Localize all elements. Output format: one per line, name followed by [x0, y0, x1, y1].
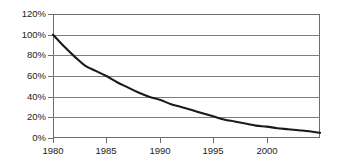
y-axis-tick: [48, 55, 53, 56]
y-axis-label: 0%: [2, 133, 46, 143]
x-axis-label: 1985: [86, 145, 126, 156]
gridline-horizontal: [53, 35, 320, 36]
y-axis-label: 60%: [2, 71, 46, 81]
x-axis-tick: [213, 138, 214, 143]
gridline-horizontal: [53, 97, 320, 98]
gridline-horizontal: [53, 76, 320, 77]
x-axis-tick: [267, 138, 268, 143]
x-axis-tick: [53, 138, 54, 143]
y-axis-tick: [48, 97, 53, 98]
x-axis-label: 1990: [140, 145, 180, 156]
gridline-horizontal: [53, 55, 320, 56]
y-axis-tick: [48, 76, 53, 77]
gridline-horizontal: [53, 117, 320, 118]
y-axis-tick: [48, 117, 53, 118]
y-axis-tick: [48, 14, 53, 15]
y-axis-label: 80%: [2, 50, 46, 60]
chart-container: 120%100%80%60%40%20%0% 19801985199019952…: [0, 0, 339, 168]
x-axis-label: 2000: [247, 145, 287, 156]
y-axis-tick: [48, 35, 53, 36]
y-axis-label: 100%: [2, 30, 46, 40]
x-axis-label: 1980: [33, 145, 73, 156]
y-axis-label: 20%: [2, 112, 46, 122]
y-axis-label: 120%: [2, 9, 46, 19]
y-axis-label: 40%: [2, 92, 46, 102]
x-axis-tick: [160, 138, 161, 143]
x-axis-tick: [106, 138, 107, 143]
x-axis-label: 1995: [193, 145, 233, 156]
